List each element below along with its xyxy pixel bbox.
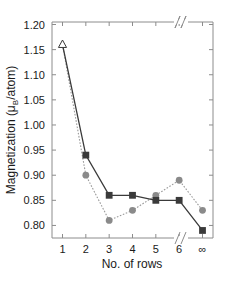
y-tick-label-0.85: 0.85 — [24, 194, 45, 206]
magnetization-vs-rows-chart: 0.800.850.900.951.001.051.101.151.20 123… — [0, 0, 225, 290]
y-tick-label-0.95: 0.95 — [24, 144, 45, 156]
y-tick-label-1.00: 1.00 — [24, 119, 45, 131]
svg-text:Magnetization (μB/atom): Magnetization (μB/atom) — [4, 66, 20, 194]
y-tick-label-1.15: 1.15 — [24, 44, 45, 56]
open-triangle-start — [58, 40, 66, 47]
y-tick-label-1.20: 1.20 — [24, 19, 45, 31]
marker-square-x6 — [176, 197, 183, 204]
x-tick-label-1: 1 — [59, 243, 65, 255]
x-axis: 123456∞ — [59, 22, 206, 255]
x-tick-label-2: 2 — [83, 243, 89, 255]
y-tick-label-0.80: 0.80 — [24, 219, 45, 231]
marker-square-x2 — [82, 152, 89, 159]
x-tick-label-4: 4 — [129, 243, 135, 255]
x-tick-label-∞: ∞ — [199, 243, 207, 255]
axis-break-top — [174, 16, 188, 28]
y-axis-title: Magnetization (μB/atom) — [4, 66, 20, 194]
marker-square-x3 — [106, 192, 113, 199]
y-tick-label-0.90: 0.90 — [24, 169, 45, 181]
y-tick-label-1.05: 1.05 — [24, 94, 45, 106]
y-tick-label-1.10: 1.10 — [24, 69, 45, 81]
x-tick-label-5: 5 — [153, 243, 159, 255]
chart-figure: 0.800.850.900.951.001.051.101.151.20 123… — [0, 0, 225, 290]
x-tick-label-6: 6 — [176, 243, 182, 255]
x-axis-title: No. of rows — [102, 257, 163, 271]
marker-circle-x4 — [129, 207, 136, 214]
marker-circle-x6 — [176, 177, 183, 184]
marker-circle-x3 — [106, 217, 113, 224]
marker-square-x∞ — [199, 227, 206, 234]
marker-square-x5 — [152, 197, 159, 204]
y-axis-title-tail: /atom) — [4, 66, 18, 100]
marker-square-x4 — [129, 192, 136, 199]
marker-circle-x∞ — [199, 207, 206, 214]
y-axis-title-main: Magnetization ( — [4, 112, 18, 194]
plot-frame — [52, 22, 213, 238]
data-series — [58, 40, 205, 234]
x-tick-label-3: 3 — [106, 243, 112, 255]
marker-circle-x2 — [82, 172, 89, 179]
